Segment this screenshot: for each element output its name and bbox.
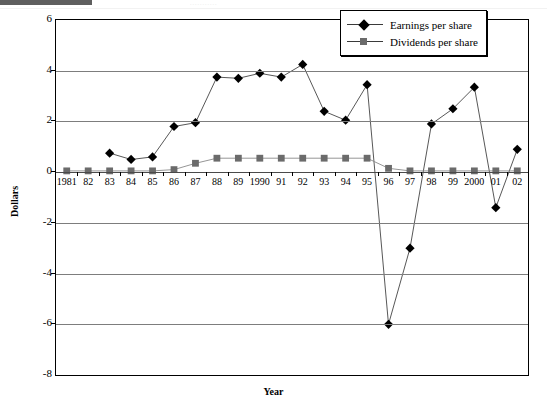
data-point-square <box>514 167 521 174</box>
x-tick-mark <box>142 172 143 176</box>
x-tick-mark <box>399 172 400 176</box>
x-tick-mark <box>77 172 78 176</box>
data-point-square <box>278 155 285 162</box>
gridline <box>56 71 528 72</box>
x-tick-mark <box>335 172 336 176</box>
x-tick-mark <box>228 172 229 176</box>
y-tick-label: -6 <box>8 317 52 328</box>
data-point-square <box>471 167 478 174</box>
data-point-square <box>149 167 156 174</box>
square-marker-icon <box>347 36 383 48</box>
data-point-diamond <box>298 60 307 69</box>
data-point-square <box>342 155 349 162</box>
data-point-diamond <box>470 83 479 92</box>
x-tick-mark <box>163 172 164 176</box>
x-tick-mark <box>292 172 293 176</box>
x-tick-mark <box>271 172 272 176</box>
data-point-diamond <box>105 149 114 158</box>
data-point-square <box>106 167 113 174</box>
series-line <box>110 64 518 324</box>
x-tick-mark <box>485 172 486 176</box>
x-tick-mark <box>120 172 121 176</box>
y-tick-label: 6 <box>8 13 52 24</box>
y-tick-label: 4 <box>8 64 52 75</box>
gridline <box>56 274 528 275</box>
data-point-square <box>321 155 328 162</box>
data-point-square <box>299 155 306 162</box>
legend-item: Earnings per share <box>347 16 478 33</box>
data-point-square <box>364 155 371 162</box>
x-tick-mark <box>442 172 443 176</box>
data-point-square <box>63 167 70 174</box>
data-point-diamond <box>491 203 500 212</box>
series-line <box>67 158 518 171</box>
plot-area <box>55 19 529 376</box>
x-tick-mark <box>421 172 422 176</box>
y-tick-label: 2 <box>8 114 52 125</box>
y-tick-label: -4 <box>8 267 52 278</box>
data-point-diamond <box>212 72 221 81</box>
chart-legend: Earnings per share Dividends per share <box>340 10 487 56</box>
data-point-diamond <box>148 152 157 161</box>
data-point-square <box>492 167 499 174</box>
legend-item-label: Earnings per share <box>383 19 472 31</box>
data-point-diamond <box>513 145 522 154</box>
data-point-square <box>385 165 392 172</box>
x-tick-mark <box>313 172 314 176</box>
data-point-diamond <box>126 155 135 164</box>
data-point-diamond <box>362 80 371 89</box>
data-point-square <box>214 155 221 162</box>
diamond-marker-icon <box>347 19 383 31</box>
data-point-square <box>407 167 414 174</box>
gridline <box>56 121 528 122</box>
data-point-square <box>450 167 457 174</box>
data-point-square <box>85 167 92 174</box>
data-point-square <box>192 160 199 167</box>
x-tick-mark <box>528 172 529 176</box>
y-tick-label: -8 <box>8 368 52 379</box>
data-point-diamond <box>234 74 243 83</box>
gridline <box>56 324 528 325</box>
header-divider <box>0 8 547 9</box>
data-point-square <box>128 167 135 174</box>
data-point-diamond <box>169 122 178 131</box>
x-tick-mark <box>99 172 100 176</box>
legend-item: Dividends per share <box>347 33 478 50</box>
legend-item-label: Dividends per share <box>383 36 478 48</box>
data-point-diamond <box>405 244 414 253</box>
gridline <box>56 223 528 224</box>
data-point-square <box>428 167 435 174</box>
data-point-square <box>235 155 242 162</box>
x-tick-label: 02 <box>497 177 537 187</box>
data-point-diamond <box>448 104 457 113</box>
x-tick-mark <box>185 172 186 176</box>
x-tick-mark <box>507 172 508 176</box>
data-point-diamond <box>277 72 286 81</box>
y-axis-title: Dollars <box>9 167 20 237</box>
header-ghost-text: ........... <box>190 0 350 7</box>
data-point-square <box>256 155 263 162</box>
x-tick-mark <box>356 172 357 176</box>
x-axis-title: Year <box>0 386 547 397</box>
series-layer <box>56 20 528 375</box>
chart-page: ........... 6420-2-4-6-8 Dollars 1981828… <box>0 0 547 407</box>
x-tick-mark <box>378 172 379 176</box>
x-tick-mark <box>206 172 207 176</box>
data-point-diamond <box>320 107 329 116</box>
data-point-diamond <box>191 118 200 127</box>
